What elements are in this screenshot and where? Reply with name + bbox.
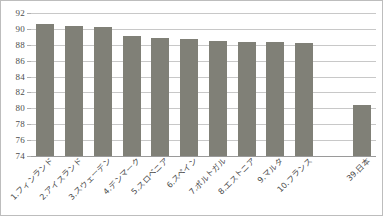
bar	[36, 24, 54, 156]
y-tick-label: 78	[16, 120, 25, 129]
y-tick-label: 82	[16, 88, 25, 97]
bar	[266, 42, 284, 156]
bars-series	[31, 13, 376, 156]
bar	[209, 41, 227, 156]
y-tick-label: 88	[16, 40, 25, 49]
chart-frame: 92908886848280787674 1.フィンランド2.アイスランド3.ス…	[0, 0, 383, 216]
x-tick-label: 39.日本	[345, 157, 372, 184]
bar	[295, 43, 313, 156]
y-tick-label: 76	[16, 136, 25, 145]
bar	[353, 105, 371, 156]
bar	[180, 39, 198, 156]
bar	[65, 26, 83, 156]
y-tick-label: 92	[16, 9, 25, 18]
y-tick-label: 84	[16, 72, 25, 81]
bar	[123, 36, 141, 156]
y-tick-label: 90	[16, 24, 25, 33]
y-tick-label: 86	[16, 56, 25, 65]
bar	[94, 27, 112, 156]
plot-area: 92908886848280787674	[31, 13, 376, 156]
y-tick-label: 74	[16, 152, 25, 161]
y-tick-label: 80	[16, 104, 25, 113]
x-axis-labels: 1.フィンランド2.アイスランド3.スウェーデン4.デンマーク5.スロベニア6.…	[31, 157, 376, 217]
bar	[151, 38, 169, 156]
bar	[238, 42, 256, 156]
